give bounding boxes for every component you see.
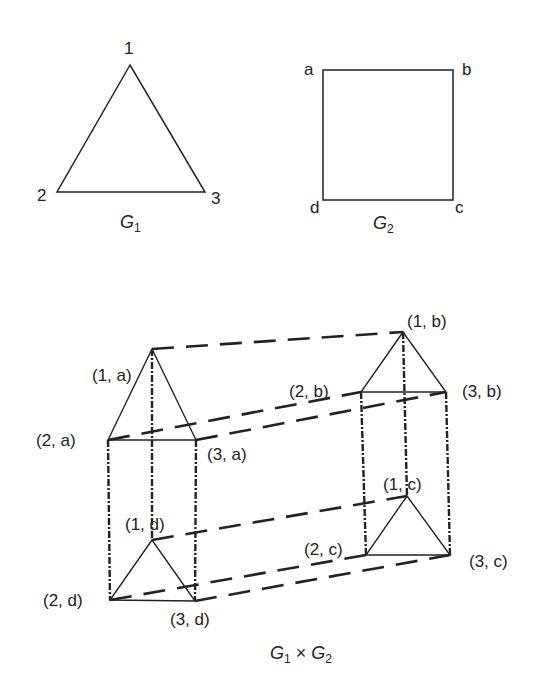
g2-vertex-label-d: d xyxy=(310,199,319,216)
product-vertex-label-2a: (2, a) xyxy=(36,432,76,449)
product-vertex-label-2d: (2, d) xyxy=(43,592,83,609)
product-caption-operator: × xyxy=(296,643,307,663)
product-caption-right-sub: 2 xyxy=(325,652,332,666)
product-vertex-label-1c: (1, c) xyxy=(383,476,422,493)
product-caption: G1 × G2 xyxy=(270,644,332,665)
g1-vertex-label-3: 3 xyxy=(211,190,220,207)
edge-1a-1b xyxy=(152,332,403,349)
g1-vertex-label-1: 1 xyxy=(124,40,133,57)
edge-3b-3c xyxy=(446,392,450,555)
g1-graph xyxy=(57,65,205,192)
g1-caption-sub: 1 xyxy=(134,221,141,235)
product-caption-left-base: G xyxy=(270,643,284,663)
product-caption-right-base: G xyxy=(311,643,325,663)
product-vertex-label-3c: (3, c) xyxy=(469,553,508,570)
g2-vertex-label-b: b xyxy=(462,61,471,78)
edge-2a-2d xyxy=(108,440,110,600)
product-vertex-label-2b: (2, b) xyxy=(289,383,329,400)
product-vertex-label-1b: (1, b) xyxy=(407,313,447,330)
product-dashed-edges xyxy=(108,332,450,601)
product-vertex-label-1d: (1, d) xyxy=(125,516,165,533)
product-vertical-edges xyxy=(108,332,450,601)
edge-2b-2c xyxy=(361,392,366,555)
g2-vertex-label-c: c xyxy=(455,199,464,216)
product-caption-left-sub: 1 xyxy=(284,652,291,666)
g2-square xyxy=(323,70,453,200)
g2-caption: G2 xyxy=(373,214,394,235)
g2-caption-sub: 2 xyxy=(387,222,394,236)
edge-1d-1c xyxy=(152,496,407,540)
product-vertex-label-2c: (2, c) xyxy=(304,541,343,558)
g2-graph xyxy=(323,70,453,200)
edge-3a-3d xyxy=(195,440,196,601)
product-vertex-label-3b: (3, b) xyxy=(462,383,502,400)
triangle-c xyxy=(366,496,450,555)
product-vertex-label-1a: (1, a) xyxy=(92,367,132,384)
product-triangles xyxy=(108,332,450,601)
g2-caption-base: G xyxy=(373,213,387,233)
graph-product-figure: 1 2 3 G1 a b c d G2 (1, a) (2, a) (3, a)… xyxy=(0,0,545,687)
g2-vertex-label-a: a xyxy=(304,61,313,78)
product-vertex-label-3a: (3, a) xyxy=(207,446,247,463)
g1-vertex-label-2: 2 xyxy=(37,187,46,204)
edge-1b-1c xyxy=(403,332,407,496)
g1-caption-base: G xyxy=(120,212,134,232)
figure-canvas xyxy=(0,0,545,687)
product-vertex-label-3d: (3, d) xyxy=(170,611,210,628)
g1-caption: G1 xyxy=(120,213,141,234)
g1-triangle xyxy=(57,65,205,192)
